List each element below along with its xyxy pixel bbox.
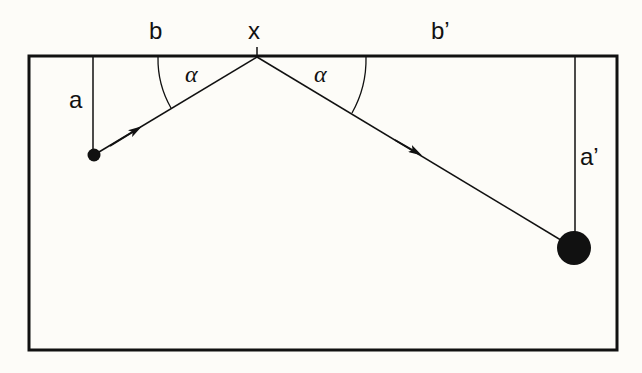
angle-left-arc	[158, 57, 171, 108]
label-a: a	[69, 86, 83, 113]
label-x: x	[248, 17, 260, 44]
large-ball	[557, 231, 591, 265]
label-alpha-left: α	[185, 61, 198, 87]
label-b: b	[149, 17, 162, 44]
small-ball	[88, 149, 101, 162]
billiard-reflection-diagram: b x b’ a a’ α α	[0, 0, 642, 373]
label-alpha-right: α	[314, 61, 327, 87]
label-b-prime: b’	[431, 17, 450, 44]
angle-right-arc	[352, 57, 366, 113]
incoming-arrow-icon	[110, 130, 136, 146]
label-a-prime: a’	[580, 143, 599, 170]
outgoing-arrow-icon	[395, 140, 416, 152]
table-frame	[29, 56, 617, 350]
